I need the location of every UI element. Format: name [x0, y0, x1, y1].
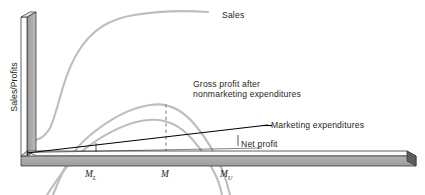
x-tick-label-mu: MU — [220, 169, 232, 181]
x-axis-top-face — [27, 151, 416, 156]
label-net-profit: Net profit — [241, 139, 278, 149]
label-marketing-expenditures: Marketing expenditures — [271, 120, 364, 130]
y-axis-label: Sales/Profits — [9, 51, 19, 123]
label-sales: Sales — [222, 10, 244, 20]
label-gross-profit: Gross profit after nonmarketing expendit… — [193, 79, 301, 100]
x-axis-front-face — [21, 156, 416, 166]
label-gross-profit-line1: Gross profit after — [193, 79, 260, 89]
curve-sales — [25, 11, 208, 141]
curve-gross-profit — [53, 104, 224, 195]
y-axis-right-face — [27, 12, 36, 156]
y-axis-front-face — [21, 17, 27, 156]
x-tick-label-ml: ML — [85, 169, 96, 181]
x-tick-mu-sub: U — [228, 174, 233, 181]
label-gross-profit-line2: nonmarketing expenditures — [193, 89, 301, 99]
x-tick-mu-base: M — [220, 169, 228, 179]
x-tick-ml-sub: L — [93, 174, 97, 181]
x-tick-label-m: M — [161, 169, 169, 181]
x-tick-m-base: M — [161, 169, 169, 179]
x-tick-ml-base: M — [85, 169, 93, 179]
